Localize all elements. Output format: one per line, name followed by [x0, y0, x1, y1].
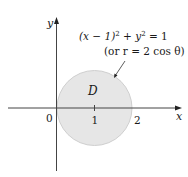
- pointer-line: [115, 61, 125, 76]
- y-axis-arrow-icon: [54, 17, 59, 24]
- tick-label-0: 0: [46, 112, 53, 124]
- eq-lhs: (x − 1): [79, 30, 115, 42]
- eq-rhs: = 1: [146, 30, 168, 42]
- equation-label: (x − 1)2 + y2 = 1: [79, 30, 168, 42]
- tick-label-2: 2: [134, 114, 141, 126]
- eq-plus: + y: [120, 30, 142, 42]
- polar-region-diagram: y x (x − 1)2 + y2 = 1 (or r = 2 cos θ) D…: [0, 0, 188, 177]
- polar-form-label: (or r = 2 cos θ): [104, 45, 185, 57]
- y-axis-label: y: [46, 17, 54, 30]
- x-axis-label: x: [176, 110, 183, 123]
- tick-label-1: 1: [92, 114, 99, 126]
- region-label: D: [87, 84, 98, 98]
